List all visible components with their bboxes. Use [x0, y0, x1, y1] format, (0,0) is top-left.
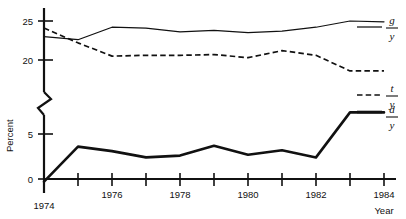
legend-item-dy: d y — [357, 103, 398, 131]
legend-label-gy-numerator: g — [389, 14, 395, 26]
x-tick-label-1976: 1976 — [101, 189, 122, 200]
x-tick-label-1978: 1978 — [169, 189, 190, 200]
y-tick-label-20: 20 — [22, 55, 33, 66]
y-tick-label-5: 5 — [28, 129, 33, 140]
y-axis-tick-labels: 25 20 5 0 — [22, 16, 33, 185]
legend-item-gy: g y — [357, 14, 398, 42]
series-line-ty — [44, 28, 384, 71]
y-axis-break-icon — [38, 92, 51, 115]
chart-figure: 25 20 5 0 Percent 1974 1976 1978 1980 — [0, 0, 406, 219]
x-tick-label-1984: 1984 — [373, 189, 394, 200]
chart-canvas: 25 20 5 0 Percent 1974 1976 1978 1980 — [0, 0, 406, 219]
series-line-dy — [44, 112, 384, 181]
legend-label-dy-denominator: y — [389, 119, 395, 131]
x-tick-label-1982: 1982 — [305, 189, 326, 200]
x-tick-label-1974: 1974 — [33, 200, 54, 211]
x-axis-tick-labels: 1974 1976 1978 1980 1982 1984 — [33, 189, 394, 211]
x-tick-label-1980: 1980 — [237, 189, 258, 200]
y-tick-label-0: 0 — [28, 174, 33, 185]
y-tick-label-25: 25 — [22, 16, 33, 27]
legend-label-gy-denominator: y — [389, 30, 395, 42]
legend-label-dy-numerator: d — [389, 103, 395, 115]
legend-label-ty-numerator: t — [390, 82, 394, 94]
series-line-gy — [44, 21, 384, 40]
y-axis — [38, 8, 51, 193]
x-axis-title: Year — [374, 205, 393, 216]
y-axis-title: Percent — [4, 119, 15, 152]
